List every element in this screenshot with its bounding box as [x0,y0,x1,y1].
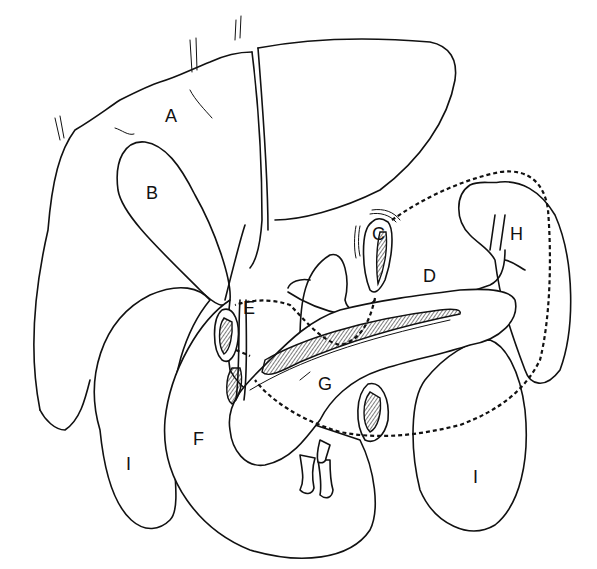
label-i-left: I [126,454,131,474]
label-h: H [510,224,523,244]
renal-vessel-cut [358,383,388,441]
anatomy-svg: A B C D E F G H I I [0,0,597,569]
label-i-right: I [473,467,478,487]
esophagus-cut [355,209,401,291]
label-g: G [318,374,332,394]
label-b: B [146,183,158,203]
label-e: E [243,298,255,318]
label-f: F [193,429,204,449]
anatomy-diagram: A B C D E F G H I I [0,0,597,569]
gallbladder-outline [117,142,245,305]
right-kidney [413,340,526,531]
label-c: C [372,224,385,244]
label-d: D [423,266,436,286]
label-a: A [165,106,177,126]
